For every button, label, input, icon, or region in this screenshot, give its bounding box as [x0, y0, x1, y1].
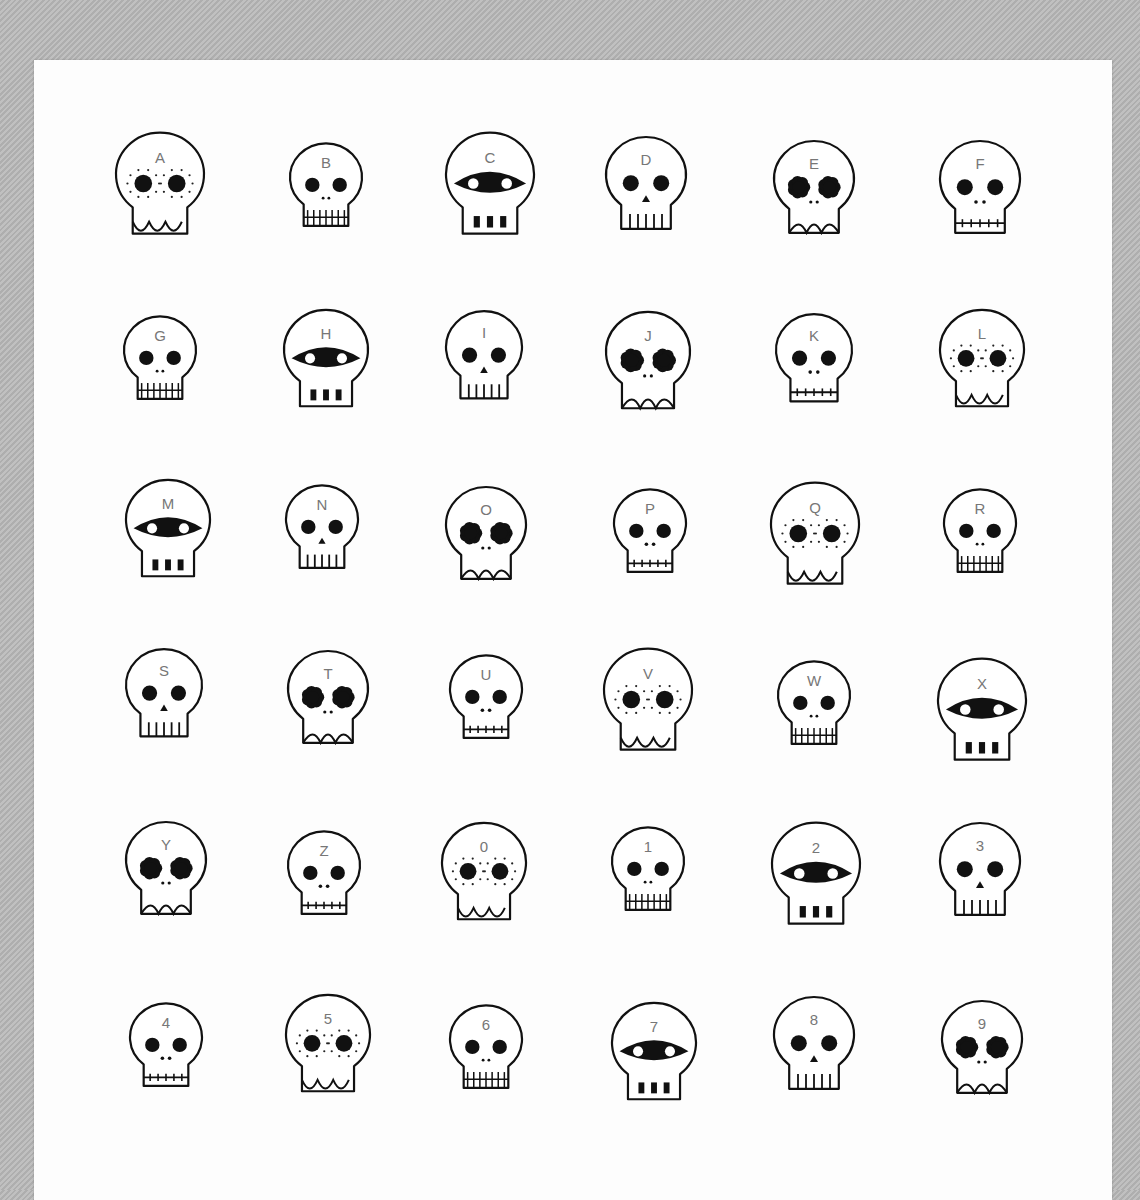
skull-label: D — [641, 151, 652, 168]
skull-label: 7 — [650, 1018, 658, 1035]
skull-label: 9 — [978, 1015, 986, 1032]
skull-j: J — [601, 310, 695, 417]
skull-a: A — [111, 131, 209, 242]
skull-2: 2 — [767, 821, 865, 932]
skull-label: A — [155, 149, 165, 166]
skull-p: P — [609, 487, 691, 580]
skull-label: V — [643, 665, 653, 682]
skull-label: 0 — [480, 838, 488, 855]
skull-1: 1 — [607, 825, 689, 918]
skull-6: 6 — [445, 1003, 527, 1096]
skull-s: S — [121, 647, 207, 744]
skull-label: U — [481, 666, 492, 683]
skull-label: 2 — [812, 839, 820, 856]
skull-label: 4 — [162, 1014, 170, 1031]
skull-label: C — [485, 149, 496, 166]
skull-x: X — [933, 657, 1031, 768]
skull-label: S — [159, 662, 169, 679]
skull-q: Q — [766, 481, 864, 592]
skull-3: 3 — [935, 821, 1025, 923]
skull-g: G — [119, 314, 201, 407]
skull-label: J — [644, 327, 652, 344]
skull-label: T — [323, 665, 332, 682]
skull-label: Y — [161, 836, 171, 853]
skull-n: N — [281, 483, 363, 576]
skull-label: X — [977, 675, 987, 692]
skull-label: K — [809, 327, 819, 344]
skull-t: T — [283, 649, 373, 751]
skull-e: E — [769, 139, 859, 241]
skull-8: 8 — [769, 995, 859, 1097]
skull-b: B — [285, 141, 367, 234]
skull-9: 9 — [937, 999, 1027, 1101]
skull-label: B — [321, 154, 331, 171]
skull-label: 6 — [482, 1016, 490, 1033]
skull-label: 3 — [976, 837, 984, 854]
skull-d: D — [601, 135, 691, 237]
skull-label: I — [482, 324, 486, 341]
skull-7: 7 — [607, 1001, 701, 1108]
skull-label: E — [809, 155, 819, 172]
skull-4: 4 — [125, 1001, 207, 1094]
skull-w: W — [773, 659, 855, 752]
skull-0: 0 — [437, 821, 531, 928]
skull-label: R — [975, 500, 986, 517]
skull-r: R — [939, 487, 1021, 580]
skull-z: Z — [283, 829, 365, 922]
skull-label: P — [645, 500, 655, 517]
skull-c: C — [441, 131, 539, 242]
skull-label: W — [807, 672, 822, 689]
skull-label: O — [480, 501, 492, 518]
skull-label: N — [317, 496, 328, 513]
skull-f: F — [935, 139, 1025, 241]
skull-label: M — [162, 495, 174, 512]
skull-l: L — [935, 308, 1029, 415]
skull-label: 8 — [810, 1011, 818, 1028]
skull-label: 5 — [324, 1010, 332, 1027]
skull-i: I — [441, 309, 527, 406]
skull-5: 5 — [281, 993, 375, 1100]
skull-v: V — [599, 647, 697, 758]
skull-label: 1 — [644, 838, 652, 855]
skull-y: Y — [121, 820, 211, 922]
skull-u: U — [445, 653, 527, 746]
skull-label: H — [321, 325, 332, 342]
skull-label: F — [975, 155, 984, 172]
skull-o: O — [441, 485, 531, 587]
skull-label: G — [154, 327, 166, 344]
skull-label: Q — [809, 499, 821, 516]
skull-label: Z — [319, 842, 328, 859]
skull-k: K — [771, 312, 857, 409]
skull-h: H — [279, 308, 373, 415]
skull-m: M — [121, 478, 215, 585]
skull-label: L — [978, 325, 986, 342]
